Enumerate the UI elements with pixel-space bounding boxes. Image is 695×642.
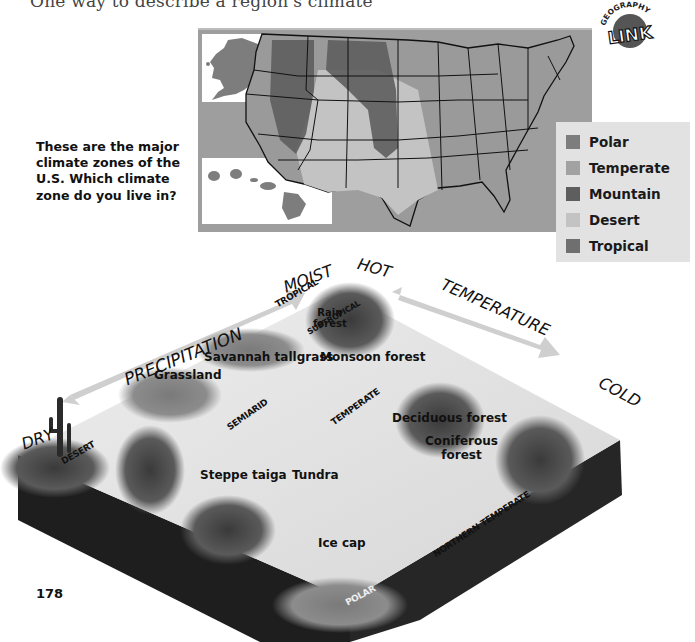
biome-label-deciduous-forest: Deciduous forest (392, 411, 507, 425)
map-question: These are the major climate zones of the… (36, 139, 206, 204)
biome-label-savannah-tallgrass: Savannah tallgrass (204, 350, 334, 364)
legend-label: Mountain (589, 186, 661, 202)
geography-link-icon: GEOGRAPHY LINK (593, 0, 663, 50)
biome-label-monsoon-forest: Monsoon forest (320, 350, 425, 364)
legend-item-temperate: Temperate (566, 158, 670, 178)
biome-label-tundra: Tundra (292, 468, 339, 482)
us-climate-map (198, 28, 592, 232)
biome-label-steppe-taiga: Steppe taiga (200, 468, 287, 482)
intro-text: One way to describe a region's climate (30, 0, 373, 11)
temperate-swatch (566, 161, 580, 175)
biome-slab (0, 240, 695, 642)
legend-item-polar: Polar (566, 132, 629, 152)
legend-item-mountain: Mountain (566, 184, 661, 204)
biome-label-coniferous-forest: Coniferous forest (425, 434, 498, 462)
badge-main-text: LINK (606, 22, 654, 48)
legend-label: Polar (589, 134, 629, 150)
geography-link-badge: GEOGRAPHY LINK (593, 0, 663, 50)
legend-item-desert: Desert (566, 210, 640, 230)
climate-biome-diagram: DRY PRECIPITATION MOIST HOT TEMPERATURE … (0, 240, 695, 642)
legend-label: Temperate (589, 160, 670, 176)
biome-label-rain-forest: Rain forest (313, 307, 347, 329)
biome-label-grassland: Grassland (154, 368, 222, 382)
biome-label-ice-cap: Ice cap (318, 536, 366, 550)
mountain-swatch (566, 187, 580, 201)
desert-swatch (566, 213, 580, 227)
contiguous-us-map (198, 30, 592, 232)
polar-swatch (566, 135, 580, 149)
legend-label: Desert (589, 212, 640, 228)
page-number: 178 (36, 586, 63, 601)
